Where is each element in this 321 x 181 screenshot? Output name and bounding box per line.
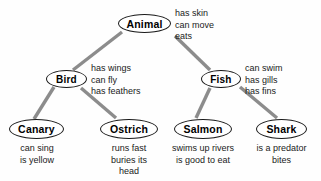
properties-animal: has skincan moveeats: [175, 8, 214, 43]
properties-bird: has wingscan flyhas feathers: [91, 63, 141, 98]
property-line: buries its: [102, 155, 156, 167]
node-bird[interactable]: Bird: [46, 70, 87, 88]
node-animal[interactable]: Animal: [118, 14, 171, 33]
property-line: is good to eat: [162, 155, 244, 167]
node-ostrich[interactable]: Ostrich: [100, 119, 158, 139]
properties-salmon: swims up riversis good to eat: [162, 143, 244, 166]
property-line: is a predator: [248, 143, 315, 155]
node-fish[interactable]: Fish: [201, 70, 241, 88]
property-line: runs fast: [102, 143, 156, 155]
property-line: swims up rivers: [162, 143, 244, 155]
property-line: has skin: [175, 8, 214, 20]
property-line: has gills: [245, 75, 283, 87]
node-salmon[interactable]: Salmon: [174, 119, 232, 139]
properties-ostrich: runs fastburies itshead: [102, 143, 156, 178]
node-shark[interactable]: Shark: [256, 119, 307, 139]
property-line: can swim: [245, 63, 283, 75]
properties-fish: can swimhas gillshas fins: [245, 63, 283, 98]
property-line: has fins: [245, 86, 283, 98]
semantic-network-diagram: AnimalBirdFishCanaryOstrichSalmonShark h…: [0, 0, 321, 181]
node-canary[interactable]: Canary: [9, 119, 64, 139]
property-line: can sing: [11, 143, 63, 155]
property-line: has wings: [91, 63, 141, 75]
property-line: eats: [175, 31, 214, 43]
property-line: has feathers: [91, 86, 141, 98]
properties-shark: is a predatorbites: [248, 143, 315, 166]
properties-canary: can singis yellow: [11, 143, 63, 166]
property-line: bites: [248, 155, 315, 167]
property-line: head: [102, 166, 156, 178]
property-line: can move: [175, 20, 214, 32]
property-line: can fly: [91, 75, 141, 87]
property-line: is yellow: [11, 155, 63, 167]
edge-fish-to-salmon: [196, 88, 210, 118]
edge-bird-to-canary: [34, 87, 54, 119]
